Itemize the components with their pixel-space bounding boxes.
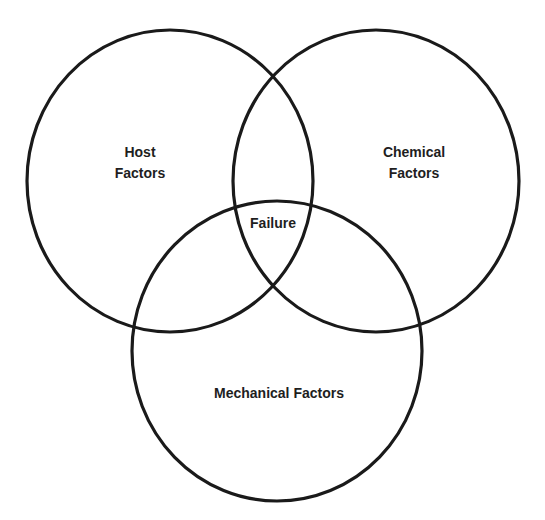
chemical-factors-label-line2: Factors	[383, 163, 445, 184]
chemical-factors-circle	[233, 30, 519, 332]
failure-label-text: Failure	[250, 213, 296, 234]
mechanical-factors-label-text: Mechanical Factors	[214, 383, 344, 404]
host-factors-circle	[27, 30, 313, 332]
failure-intersection-label: Failure	[250, 213, 296, 234]
mechanical-factors-circle	[132, 201, 422, 501]
chemical-factors-label-line1: Chemical	[383, 142, 445, 163]
host-factors-label: Host Factors	[115, 142, 166, 184]
host-factors-label-line2: Factors	[115, 163, 166, 184]
chemical-factors-label: Chemical Factors	[383, 142, 445, 184]
venn-diagram	[0, 0, 545, 520]
host-factors-label-line1: Host	[115, 142, 166, 163]
mechanical-factors-label: Mechanical Factors	[214, 383, 344, 404]
